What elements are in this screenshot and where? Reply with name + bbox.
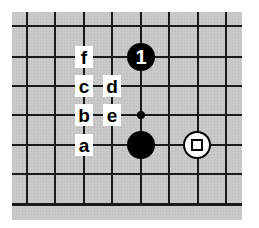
grid-line-horizontal: [12, 25, 242, 27]
grid-line-vertical: [26, 12, 28, 205]
grid-line-vertical: [225, 12, 227, 205]
point-marker-dot: [137, 111, 145, 119]
grid-line-vertical: [168, 12, 170, 205]
black-stone: [127, 131, 155, 159]
point-label-d: d: [103, 75, 121, 97]
grid-line-horizontal: [12, 114, 242, 116]
point-label-e: e: [103, 104, 121, 126]
point-label-f: f: [75, 46, 93, 68]
grid-line-vertical: [54, 12, 56, 205]
grid-line-vertical: [140, 12, 142, 205]
grid-line-horizontal: [12, 173, 242, 175]
point-label-c: c: [75, 75, 93, 97]
black-stone-move-1: 1: [127, 43, 155, 71]
point-label-a: a: [75, 134, 93, 156]
grid-line-horizontal: [12, 85, 242, 87]
move-number: 1: [135, 47, 146, 67]
grid-line-vertical: [197, 12, 199, 205]
board-edge-line: [12, 203, 242, 206]
white-stone-marked: [183, 131, 211, 159]
go-board: [12, 12, 242, 220]
point-label-b: b: [75, 104, 93, 126]
square-marker-icon: [191, 139, 203, 151]
